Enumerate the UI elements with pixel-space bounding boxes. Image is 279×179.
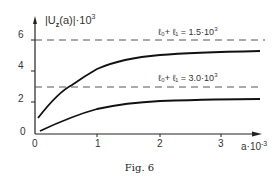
x-axis-label: a·10-3 [241,139,267,152]
y-tick-label-6: 6 [18,30,24,40]
y-axis-arrow-icon [33,16,37,24]
y-axis-label: |Uz(a)|·103 [45,12,95,30]
x-tick-label-1: 1 [95,139,101,149]
y-tick-label-4: 4 [18,61,24,71]
figure-caption: Fig. 6 [0,162,279,173]
curve-series-1 [38,51,260,118]
curve-series-2 [40,99,260,131]
x-axis-arrow-icon [252,132,262,137]
chart-canvas [0,0,279,179]
x-tick-label-2: 2 [157,139,163,149]
y-tick-label-0: 0 [20,127,26,137]
annotation-series-2: ℓ₀+ ℓ₁ = 3.0·103 [158,70,217,83]
x-tick-label-3: 3 [218,139,224,149]
x-tick-label-0: 0 [32,139,38,149]
y-tick-label-2: 2 [18,94,24,104]
annotation-series-1: ℓ₀+ ℓ₁ = 1.5·103 [158,24,217,37]
